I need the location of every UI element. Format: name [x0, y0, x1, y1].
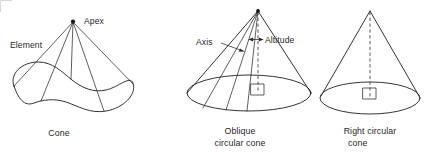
caption-oblique-line1: Oblique — [224, 126, 255, 136]
caption-right-line1: Right circular — [344, 126, 397, 136]
panel-general-cone: Apex Element Cone — [10, 16, 134, 138]
element-line-3 — [71, 22, 73, 79]
oblique-apex-marker — [256, 9, 260, 13]
oblique-slant-left — [187, 11, 258, 93]
element-line-2 — [41, 22, 73, 101]
figure-canvas: Apex Element Cone Axis — [0, 0, 429, 154]
right-base-ellipse — [320, 82, 420, 114]
oblique-slant-right — [258, 11, 311, 93]
altitude-arrowhead-right — [259, 37, 264, 41]
oblique-right-angle-marker — [251, 84, 264, 95]
apex-point-marker — [71, 19, 75, 23]
apex-label: Apex — [84, 16, 105, 26]
caption-right-line2: cone — [348, 138, 367, 148]
altitude-label: Altitude — [265, 35, 295, 45]
element-line-1 — [14, 22, 73, 86]
page-frame-corner — [1, 1, 13, 13]
cone-base-irregular — [13, 62, 134, 112]
oblique-element-line-1 — [203, 11, 258, 108]
oblique-element-line-3 — [247, 11, 258, 111]
panel-right-circular-cone: Right circular cone — [320, 11, 420, 148]
axis-label: Axis — [196, 37, 213, 47]
caption-oblique-line2: circular cone — [214, 138, 265, 148]
right-slant-left — [321, 11, 370, 96]
caption-cone: Cone — [48, 128, 69, 138]
right-angle-marker — [363, 88, 376, 99]
element-line-4 — [73, 22, 104, 111]
panel-oblique-circular-cone: Axis Altitude Oblique circular cone — [187, 9, 311, 148]
axis-leader-arrowhead — [239, 49, 245, 52]
element-label: Element — [10, 40, 43, 50]
element-line-5 — [73, 22, 133, 84]
cone-types-figure: Apex Element Cone Axis — [0, 0, 429, 154]
right-slant-right — [370, 11, 419, 96]
